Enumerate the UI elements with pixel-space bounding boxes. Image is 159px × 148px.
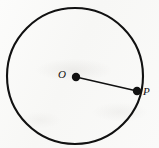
center-point-label-o: O	[58, 69, 66, 80]
circumference-point-dot	[133, 87, 141, 95]
circumference-point-label-p: P	[143, 86, 150, 97]
diagram-canvas	[0, 0, 159, 148]
circle-diagram-figure: O P	[0, 0, 159, 148]
radius-segment-op	[76, 77, 137, 91]
center-point-dot	[72, 73, 80, 81]
